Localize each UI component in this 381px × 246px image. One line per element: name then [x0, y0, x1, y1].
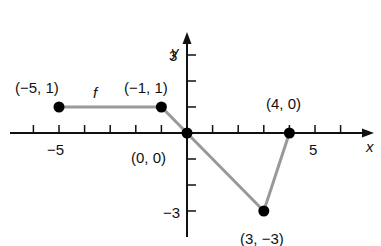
data-point: [284, 128, 295, 139]
data-point: [156, 102, 167, 113]
point-label-3-neg3: (3, −3): [240, 230, 284, 246]
x-axis-label: x: [365, 138, 374, 155]
function-f-line: [59, 107, 289, 211]
point-label-neg5-1: (−5, 1): [15, 79, 59, 96]
function-graph: x y −5 5 3 −3 f (−5, 1) (−1, 1) (0, 0) (…: [0, 0, 381, 246]
point-label-4-0: (4, 0): [266, 95, 301, 112]
x-tick-label-5: 5: [309, 141, 317, 158]
data-point: [182, 128, 193, 139]
x-axis-arrow-icon: [362, 129, 374, 138]
data-point: [258, 206, 269, 217]
y-axis-arrow-icon: [183, 32, 192, 44]
x-tick-label-neg5: −5: [47, 141, 64, 158]
point-label-0-0: (0, 0): [131, 149, 166, 166]
function-label: f: [93, 84, 99, 101]
y-tick-label-3: 3: [169, 47, 177, 64]
y-tick-label-neg3: −3: [163, 204, 180, 221]
point-label-neg1-1: (−1, 1): [124, 79, 168, 96]
data-point: [54, 102, 65, 113]
